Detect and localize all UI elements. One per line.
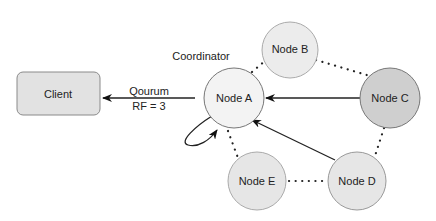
client-label: Client [44,88,72,100]
node-d-label: Node D [338,175,375,187]
node-c-label: Node C [371,92,408,104]
node-e-label: Node E [239,175,276,187]
replication-diagram: Client Qourum RF = 3 Coordinator Node A … [0,0,436,221]
self-loop-a [185,116,217,146]
link-a-e [228,131,238,158]
diagram-canvas [0,0,436,221]
coordinator-label: Coordinator [172,50,229,62]
link-c-d [375,128,384,156]
link-b-c [316,60,370,76]
node-a-label: Node A [216,92,252,104]
rf-label: RF = 3 [132,100,165,112]
quorum-label: Qourum [129,85,169,97]
node-b-label: Node B [272,43,309,55]
link-a-b [252,60,266,72]
